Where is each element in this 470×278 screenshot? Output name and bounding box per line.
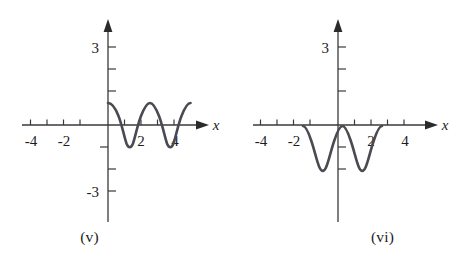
x-tick-label-minus2-v: -2 [58, 133, 71, 149]
figure-caption-vi: (vi) [265, 228, 470, 246]
x-tick-label-minus2-vi: -2 [288, 133, 301, 149]
x-axis-label-vi: x [441, 117, 449, 133]
x-tick-label-2-v: 2 [137, 133, 145, 149]
y-axis-arrow-vi [334, 19, 343, 32]
x-axis-label-v: x [212, 117, 220, 133]
figure-panel-vi: -4 -2 2 4 3 x (vi) [235, 0, 470, 278]
plot-v: -4 -2 2 4 3 -3 x [0, 0, 235, 240]
x-axis-arrow-v [196, 121, 209, 130]
figure-panel-v: -4 -2 2 4 3 -3 x (v) [0, 0, 235, 278]
plot-vi: -4 -2 2 4 3 x [235, 0, 470, 240]
x-axis-arrow-vi [425, 121, 438, 130]
x-tick-label-4-vi: 4 [401, 133, 409, 149]
y-tick-label-3-vi: 3 [322, 40, 330, 56]
x-tick-label-minus4-vi: -4 [255, 133, 268, 149]
y-tick-label-3-v: 3 [92, 40, 100, 56]
y-tick-label-minus3-v: -3 [87, 184, 100, 200]
x-tick-label-minus4-v: -4 [25, 133, 38, 149]
figure-caption-v: (v) [0, 228, 207, 246]
y-axis-arrow-v [104, 19, 113, 32]
figure-pair-v-vi: -4 -2 2 4 3 -3 x (v) [0, 0, 470, 278]
